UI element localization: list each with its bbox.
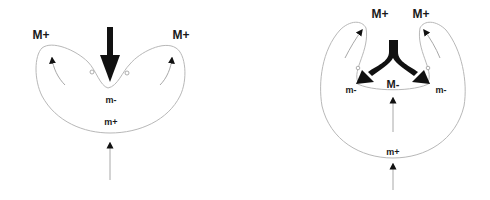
right-diagram: [321, 22, 466, 190]
left-marker-circle: [90, 70, 94, 74]
left-center-label: m-: [106, 96, 117, 105]
right-marker-circle: [125, 71, 129, 75]
left-lobe-arrow-icon: [345, 30, 362, 58]
right-top-left-label: M+: [371, 8, 388, 20]
right-center-label: M-: [387, 79, 400, 90]
right-lobe-arrow-icon: [160, 58, 172, 85]
left-top-left-label: M+: [32, 29, 49, 41]
left-bottom-label: m+: [104, 118, 117, 127]
right-marker-circle: [426, 66, 430, 70]
right-right-label: m-: [436, 86, 447, 95]
left-marker-circle: [356, 66, 360, 70]
right-bottom-label: m+: [386, 148, 399, 157]
left-top-right-label: M+: [172, 29, 189, 41]
right-lobe-arrow-icon: [424, 30, 440, 58]
diagram-canvas: [0, 0, 490, 200]
left-lobe-arrow-icon: [52, 58, 65, 85]
right-left-label: m-: [346, 86, 357, 95]
right-top-right-label: M+: [412, 8, 429, 20]
thick-down-arrow-icon: [100, 27, 120, 82]
